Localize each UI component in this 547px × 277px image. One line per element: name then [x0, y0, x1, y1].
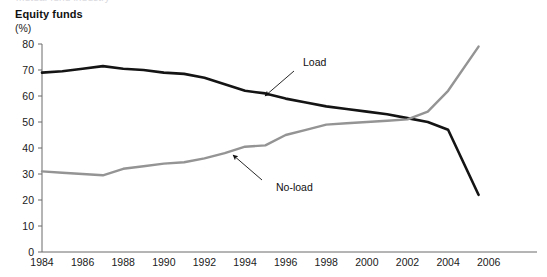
x-axis-tick-label: 2004 [436, 256, 460, 268]
x-axis-tick-label: 2000 [355, 256, 379, 268]
x-axis-tick-label: 1988 [112, 256, 136, 268]
x-axis-tick-label: 1996 [274, 256, 298, 268]
annotation-label-no-load: No-load [276, 181, 313, 193]
y-axis-tick-label: 60 [22, 90, 34, 102]
y-axis: 01020304050607080 [22, 38, 42, 258]
x-axis-tick-label: 2002 [396, 256, 420, 268]
y-axis-tick-label: 30 [22, 168, 34, 180]
series-line-load [42, 66, 479, 195]
annotation-label-load: Load [303, 56, 327, 68]
x-axis-tick-label: 2006 [477, 256, 501, 268]
y-axis-tick-label: 80 [22, 38, 34, 50]
x-axis-tick-label: 1986 [71, 256, 95, 268]
plot-area: 01020304050607080 1984198619881990199219… [0, 0, 547, 277]
x-axis-tick-label: 1998 [315, 256, 339, 268]
equity-funds-chart: mutual fund industry Equity funds (%) 01… [0, 0, 547, 277]
y-axis-tick-label: 40 [22, 142, 34, 154]
y-axis-tick-label: 10 [22, 220, 34, 232]
annotation-arrow-load [265, 71, 294, 96]
y-axis-tick-label: 20 [22, 194, 34, 206]
x-axis-tick-label: 1990 [152, 256, 176, 268]
x-axis-tick-label: 1992 [193, 256, 217, 268]
data-series-group [42, 47, 479, 195]
x-axis-tick-label: 1994 [233, 256, 257, 268]
annotation-arrow-no-load [233, 155, 262, 180]
x-axis-tick-label: 1984 [30, 256, 54, 268]
annotation-group: LoadNo-load [233, 56, 327, 193]
x-axis: 1984198619881990199219941996199820002002… [30, 252, 537, 268]
y-axis-tick-label: 70 [22, 64, 34, 76]
y-axis-tick-label: 50 [22, 116, 34, 128]
